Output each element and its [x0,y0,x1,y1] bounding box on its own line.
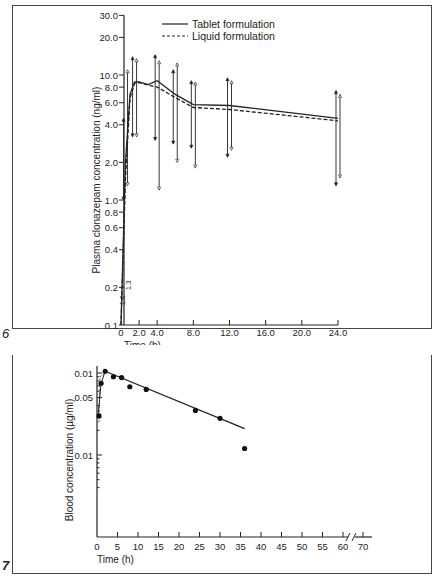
data-point [103,369,108,374]
fit-line [105,371,244,428]
data-point [217,416,222,421]
y-tick-label: 0.01 [75,450,94,461]
x-tick-label: 35 [235,541,246,552]
data-point [119,375,124,380]
x-tick-label: 5 [115,541,120,552]
x-tick-label: 60 [338,541,349,552]
data-point [144,387,149,392]
x-tick-label: 70 [358,541,369,552]
data-point [111,374,116,379]
x-tick-label: 0 [94,541,99,552]
y-tick-label: 0.01 [75,368,94,379]
x-tick-label: 30 [215,541,226,552]
x-tick-label: 40 [256,541,267,552]
x-tick-label: 45 [276,541,287,552]
y-tick-label: 0.05 [75,392,94,403]
x-tick-label: 15 [153,541,164,552]
data-point [99,381,104,386]
data-point [96,413,101,418]
x-tick-label: 55 [317,541,328,552]
data-point [193,408,198,413]
data-point [242,446,247,451]
x-tick-label: 50 [297,541,308,552]
x-tick-label: 10 [133,541,144,552]
y-axis-label: Blood concentration (µg/ml) [64,399,75,522]
x-tick-label: 20 [174,541,185,552]
x-tick-label: 25 [194,541,205,552]
data-point [127,384,132,389]
x-axis-label: Time (h) [97,554,134,565]
